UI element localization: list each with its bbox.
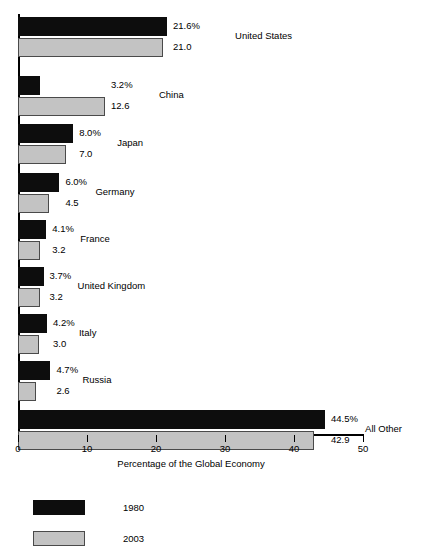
x-axis-tick-label: 10 xyxy=(67,443,107,455)
bar-value-label-2003: 3.2 xyxy=(52,244,65,256)
bar-value-label-1980: 3.7% xyxy=(50,270,72,282)
bar-group: 4.1%3.2France xyxy=(18,220,363,262)
bar-2003 xyxy=(18,382,36,401)
bar-value-label-2003: 3.2 xyxy=(50,291,63,303)
x-axis-tick xyxy=(156,435,157,442)
x-axis-tick xyxy=(225,435,226,442)
legend-swatch xyxy=(33,531,85,546)
category-label: All Other xyxy=(365,423,402,435)
bar-value-label-1980: 8.0% xyxy=(79,127,101,139)
category-label: Japan xyxy=(117,137,143,149)
bar-1980 xyxy=(18,173,59,192)
bar-2003 xyxy=(18,38,163,57)
bar-1980 xyxy=(18,17,167,36)
bar-group: 3.2%12.6China xyxy=(18,76,363,118)
bar-value-label-1980: 4.2% xyxy=(53,317,75,329)
x-axis-title: Percentage of the Global Economy xyxy=(18,458,364,469)
category-label: United Kingdom xyxy=(78,280,146,292)
x-axis-tick-label: 20 xyxy=(136,443,176,455)
x-axis-tick xyxy=(18,435,19,442)
bar-group: 4.7%2.6Russia xyxy=(18,361,363,403)
bar-group: 21.6%21.0United States xyxy=(18,17,363,59)
bar-value-label-2003: 2.6 xyxy=(56,385,69,397)
bar-value-label-1980: 4.7% xyxy=(56,364,78,376)
bar-1980 xyxy=(18,220,46,239)
x-axis-tick-label: 40 xyxy=(274,443,314,455)
bar-1980 xyxy=(18,76,40,95)
bar-1980 xyxy=(18,314,47,333)
bar-value-label-2003: 3.0 xyxy=(53,338,66,350)
category-label: Italy xyxy=(79,327,96,339)
bar-group: 4.2%3.0Italy xyxy=(18,314,363,356)
bar-2003 xyxy=(18,194,49,213)
bar-1980 xyxy=(18,124,73,143)
plot-area: 21.6%21.0United States3.2%12.6China8.0%7… xyxy=(18,14,363,434)
bar-1980 xyxy=(18,410,325,429)
category-label: Germany xyxy=(95,186,134,198)
bar-value-label-1980: 21.6% xyxy=(173,20,200,32)
category-label: Russia xyxy=(82,374,111,386)
bar-value-label-2003: 7.0 xyxy=(79,148,92,160)
x-axis-tick xyxy=(87,435,88,442)
x-axis-tick xyxy=(294,435,295,442)
x-axis-tick xyxy=(363,435,364,442)
category-label: United States xyxy=(235,30,292,42)
bar-value-label-1980: 44.5% xyxy=(331,413,358,425)
bar-2003 xyxy=(18,145,66,164)
bar-group: 3.7%3.2United Kingdom xyxy=(18,267,363,309)
x-axis-tick-label: 30 xyxy=(205,443,245,455)
bar-1980 xyxy=(18,267,44,286)
bar-value-label-1980: 6.0% xyxy=(65,176,87,188)
bar-2003 xyxy=(18,335,39,354)
bar-value-label-2003: 4.5 xyxy=(65,197,78,209)
bar-2003 xyxy=(18,97,105,116)
category-label: France xyxy=(80,233,110,245)
x-axis-tick-label: 50 xyxy=(343,443,383,455)
category-label: China xyxy=(159,89,184,101)
bar-value-label-1980: 4.1% xyxy=(52,223,74,235)
legend-label: 1980 xyxy=(123,502,144,514)
bar-chart: 21.6%21.0United States3.2%12.6China8.0%7… xyxy=(0,0,439,560)
bar-1980 xyxy=(18,361,50,380)
bar-group: 8.0%7.0Japan xyxy=(18,124,363,166)
legend-label: 2003 xyxy=(123,533,144,545)
bar-2003 xyxy=(18,241,40,260)
bar-value-label-2003: 12.6 xyxy=(111,100,130,112)
bar-value-label-2003: 21.0 xyxy=(173,41,192,53)
bar-group: 6.0%4.5Germany xyxy=(18,173,363,215)
bar-value-label-1980: 3.2% xyxy=(111,79,133,91)
x-axis-tick-label: 0 xyxy=(0,443,38,455)
legend-swatch xyxy=(33,500,85,515)
bar-2003 xyxy=(18,288,40,307)
